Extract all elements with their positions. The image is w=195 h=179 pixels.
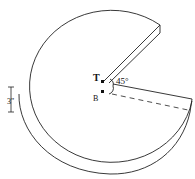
point-t [101, 80, 104, 83]
lower-cut-end [190, 99, 192, 112]
label-thickness: 3" [7, 97, 14, 106]
upper-cut-edge-top [103, 25, 160, 82]
label-t: T [93, 72, 100, 83]
top-face-arc [30, 10, 192, 162]
point-b [101, 90, 104, 93]
angle-arc [110, 79, 113, 86]
label-angle: 45° [116, 76, 129, 86]
label-b: B [93, 94, 98, 103]
disk-wedge-diagram: T B 45° 3" [0, 0, 195, 179]
angle-arc-lower [109, 86, 113, 94]
